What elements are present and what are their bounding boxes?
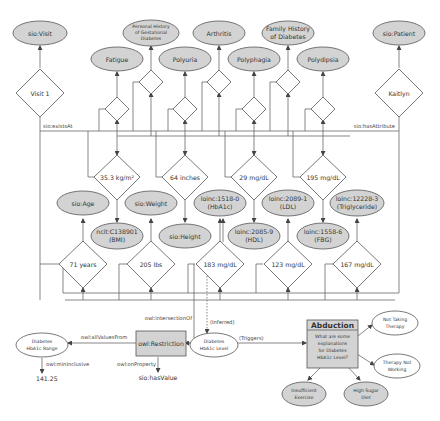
min-inclusive-value: 141.25 bbox=[36, 375, 58, 382]
symptom-instance-polydipsia[interactable] bbox=[311, 97, 335, 121]
class-label-line: of Gestational bbox=[135, 30, 167, 35]
class-fatigue[interactable]: Fatigue bbox=[91, 47, 143, 71]
class-sio-age[interactable]: sio:Age bbox=[57, 191, 109, 215]
ontology-diagram: sio:existsAt sio:hasAttribute owl:inters… bbox=[0, 0, 440, 421]
all-values-from-label: owl:allValuesFrom bbox=[81, 334, 127, 340]
symptom-instance-family-history[interactable] bbox=[276, 70, 300, 94]
value-label: 35.3 kg/m² bbox=[100, 174, 134, 182]
value-hba1c[interactable]: 183 mg/dL bbox=[196, 241, 244, 288]
value-label: 123 mg/dL bbox=[271, 261, 305, 269]
explanation-label-line: Diet bbox=[361, 395, 371, 400]
value-label: 195 mg/dL bbox=[306, 174, 340, 182]
explanation-label-line: Insufficient bbox=[291, 388, 317, 393]
class-label-line: Diabetes bbox=[141, 36, 162, 41]
abduction-title: Abduction bbox=[311, 321, 354, 330]
abduction-question-line: explanations bbox=[318, 341, 348, 346]
explanation-label-line: High Sugar bbox=[353, 388, 379, 393]
class-label-line: ncit:C138901 bbox=[96, 228, 138, 235]
has-attribute-label: sio:hasAttribute bbox=[354, 123, 395, 129]
class-personal-history-gestational-diabetes[interactable]: Personal History of Gestational Diabetes bbox=[123, 20, 179, 46]
class-sio-height[interactable]: sio:Height bbox=[159, 224, 211, 248]
class-label: sio:Weight bbox=[135, 200, 168, 208]
class-label: sio:Age bbox=[72, 200, 95, 208]
class-polydipsia[interactable]: Polydipsia bbox=[297, 47, 349, 71]
explanation-label-line: Therapy Not bbox=[382, 360, 412, 365]
abduction-question-line: for Diabetes bbox=[318, 348, 347, 353]
explanation-label-line: Therapy bbox=[385, 324, 405, 329]
explanation-not-taking-therapy[interactable]: Not Taking Therapy bbox=[372, 311, 418, 335]
value-label: 64 inches bbox=[170, 174, 200, 181]
class-label-line: (BMI) bbox=[109, 236, 125, 243]
class-family-history-diabetes[interactable]: Family History of Diabetes bbox=[262, 21, 314, 45]
explanation-therapy-not-working[interactable]: Therapy Not Working bbox=[374, 354, 420, 378]
symptom-instance-fatigue[interactable] bbox=[105, 97, 129, 121]
class-label-line: (HDL) bbox=[245, 236, 263, 243]
class-polyphagia[interactable]: Polyphagia bbox=[228, 47, 280, 71]
value-height[interactable]: 64 inches bbox=[162, 155, 208, 200]
instance-kaitlyn[interactable]: Kaitlyn bbox=[375, 69, 423, 117]
min-inclusive-label: owl:minInclusive bbox=[46, 361, 89, 367]
has-value-property: sio:hasValue bbox=[139, 374, 178, 381]
class-loinc-triglyceride[interactable]: loinc:12228-3 (Triglyceride) bbox=[330, 190, 384, 216]
instance-visit-1[interactable]: Visit 1 bbox=[16, 69, 64, 117]
class-label-line: (HbA1c) bbox=[208, 203, 233, 210]
class-polyuria[interactable]: Polyuria bbox=[159, 47, 211, 71]
class-loinc-hdl[interactable]: loinc:2085-9 (HDL) bbox=[228, 223, 280, 249]
class-label: sio:Patient bbox=[383, 30, 416, 37]
class-label-line: loinc:2089-1 bbox=[269, 195, 308, 202]
explanation-label-line: Not Taking bbox=[383, 317, 407, 322]
class-loinc-fbg[interactable]: loinc:1558-6 (FBG) bbox=[297, 223, 349, 249]
class-label: Arthritis bbox=[207, 30, 232, 37]
class-arthritis[interactable]: Arthritis bbox=[193, 21, 245, 45]
explanation-label-line: Exercise bbox=[294, 395, 313, 400]
explanation-label-line: Working bbox=[388, 367, 407, 372]
inferred-label: (Inferred) bbox=[210, 319, 234, 325]
class-loinc-hba1c[interactable]: loinc:1518-0 (HbA1c) bbox=[194, 190, 246, 216]
range-label-line: HbA1c Range bbox=[27, 346, 58, 351]
class-label: sio:Height bbox=[169, 233, 201, 241]
on-property-label: owl:onProperty bbox=[117, 361, 156, 368]
class-label-line: loinc:1518-0 bbox=[201, 195, 240, 202]
class-label-line: loinc:2085-9 bbox=[235, 228, 274, 235]
class-label-line: of Diabetes bbox=[270, 33, 305, 40]
value-label: 71 years bbox=[70, 261, 97, 269]
class-sio-patient[interactable]: sio:Patient bbox=[373, 21, 425, 45]
explanation-high-sugar-diet[interactable]: High Sugar Diet bbox=[344, 382, 388, 406]
abduction-question-line: What are some bbox=[315, 334, 350, 339]
class-label-line: loinc:1558-6 bbox=[304, 228, 343, 235]
triggers-label: (Triggers) bbox=[239, 335, 264, 342]
value-age[interactable]: 71 years bbox=[59, 241, 107, 288]
symptom-instance-arthritis[interactable] bbox=[207, 70, 231, 94]
range-label-line: Diabetes bbox=[32, 339, 53, 344]
class-label: sio:Visit bbox=[28, 30, 53, 37]
owl-restriction-box[interactable]: owl:Restriction bbox=[136, 331, 186, 356]
value-ldl[interactable]: 123 mg/dL bbox=[264, 241, 312, 288]
instance-label: Kaitlyn bbox=[388, 90, 409, 98]
class-label-line: (FBG) bbox=[314, 236, 331, 243]
level-label-line: HbA1c Level bbox=[200, 346, 229, 351]
symptom-instance-personal-history[interactable] bbox=[139, 70, 163, 94]
class-label-line: (Triglyceride) bbox=[337, 203, 377, 211]
symptom-instance-polyphagia[interactable] bbox=[242, 97, 266, 121]
class-loinc-ldl[interactable]: loinc:2089-1 (LDL) bbox=[262, 190, 314, 216]
abduction-box[interactable]: Abduction What are some explanations for… bbox=[307, 320, 358, 368]
intersection-of-label: owl:intersectionOf bbox=[145, 315, 192, 321]
diabetes-hba1c-level[interactable]: Diabetes HbA1c Level bbox=[190, 333, 238, 357]
class-label: Fatigue bbox=[106, 56, 129, 64]
exists-at-label: sio:existsAt bbox=[43, 123, 73, 129]
value-bmi[interactable]: 35.3 kg/m² bbox=[94, 155, 140, 200]
value-label: 29 mg/dL bbox=[239, 174, 269, 182]
explanation-insufficient-exercise[interactable]: Insufficient Exercise bbox=[282, 382, 326, 406]
symptom-instance-polyuria[interactable] bbox=[173, 97, 197, 121]
class-label-line: Personal History bbox=[132, 24, 170, 29]
value-label: 167 mg/dL bbox=[340, 261, 374, 269]
class-ncit-bmi[interactable]: ncit:C138901 (BMI) bbox=[91, 223, 143, 249]
class-sio-weight[interactable]: sio:Weight bbox=[125, 191, 177, 215]
abduction-question-line: HbA1c Level? bbox=[317, 355, 349, 360]
value-label: 205 lbs bbox=[140, 261, 163, 268]
class-sio-visit[interactable]: sio:Visit bbox=[13, 21, 67, 45]
value-triglyceride[interactable]: 167 mg/dL bbox=[333, 241, 381, 288]
class-label: Polyphagia bbox=[237, 56, 271, 64]
diabetes-hba1c-range[interactable]: Diabetes HbA1c Range bbox=[16, 333, 68, 357]
value-weight[interactable]: 205 lbs bbox=[127, 241, 175, 288]
